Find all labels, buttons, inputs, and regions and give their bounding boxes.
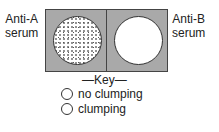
key-title: —Key— <box>82 73 127 87</box>
key-label-no-clumping: no clumping <box>78 87 143 101</box>
dotted-circle-icon <box>61 103 73 115</box>
no-clumping-sample-circle-icon <box>114 16 163 65</box>
anti-b-label-line1: Anti-B <box>172 12 205 26</box>
anti-a-serum-label: Anti-A serum <box>5 12 38 40</box>
anti-b-panel <box>106 9 168 72</box>
open-circle-icon <box>61 88 73 100</box>
key-item-no-clumping: no clumping <box>61 87 143 101</box>
anti-a-label-line1: Anti-A <box>5 12 38 26</box>
key-item-clumping: clumping <box>61 102 126 116</box>
anti-b-serum-label: Anti-B serum <box>172 12 205 40</box>
anti-a-panel <box>45 9 107 72</box>
key-label-clumping: clumping <box>78 102 126 116</box>
anti-b-label-line2: serum <box>172 26 205 40</box>
anti-a-label-line2: serum <box>5 26 38 40</box>
clumping-sample-circle-icon <box>53 16 102 65</box>
